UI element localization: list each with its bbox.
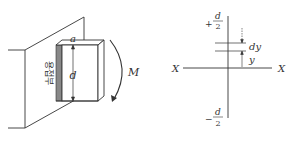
bottom-den: 2: [215, 119, 220, 128]
depth-label-d: d: [69, 69, 76, 82]
section-axes: [183, 16, 272, 118]
welded-bar: [56, 40, 104, 101]
axis-label-right-x: X: [277, 63, 286, 74]
moment-arrow: [110, 40, 122, 102]
top-sign: +: [205, 19, 213, 29]
weld-label: 용접부: [44, 61, 55, 85]
weld-strip: [56, 45, 62, 101]
axis-label-left-x: X: [171, 63, 180, 74]
top-den: 2: [215, 22, 220, 31]
moment-label-m: M: [127, 66, 140, 79]
weld-bending-diagram: a d M 용접부 + d 2 − d 2 X X dy y: [0, 0, 291, 142]
width-label-a: a: [70, 33, 76, 44]
strip-dimension: [241, 28, 244, 67]
top-num: d: [215, 11, 221, 21]
bottom-sign: −: [205, 114, 213, 124]
bottom-num: d: [215, 107, 221, 117]
distance-label-y: y: [248, 54, 255, 65]
strip-label-dy: dy: [249, 41, 261, 52]
